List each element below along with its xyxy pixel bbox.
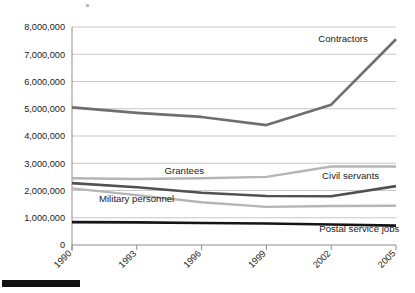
y-tick-label: 8,000,000	[24, 22, 65, 32]
footer-black-bar	[2, 280, 80, 287]
series-label-contractors: Contractors	[318, 33, 368, 44]
series-label-grantees: Grantees	[165, 165, 205, 176]
series-label-postal-service-jobs: Postal service jobs	[319, 223, 399, 234]
y-tick-label: 6,000,000	[24, 77, 65, 87]
series-label-military-personnel: Military personnel	[99, 193, 174, 204]
y-tick-label: 5,000,000	[24, 104, 65, 114]
gridlines-group	[72, 27, 396, 218]
y-tick-label: 3,000,000	[24, 159, 65, 169]
series-label-civil-servants: Civil servants	[322, 170, 379, 181]
x-tick-labels-group: 199019931996199920022005	[52, 248, 398, 270]
y-tick-label: 7,000,000	[24, 50, 65, 60]
y-tick-labels-group: 01,000,0002,000,0003,000,0004,000,0005,0…	[24, 22, 65, 250]
x-tick-label: 2005	[376, 248, 398, 270]
x-tick-label: 1990	[52, 248, 74, 270]
chart-container: 01,000,0002,000,0003,000,0004,000,0005,0…	[0, 0, 415, 293]
x-tick-marks-group	[72, 245, 396, 250]
y-tick-label: 0	[60, 240, 65, 250]
line-chart: 01,000,0002,000,0003,000,0004,000,0005,0…	[0, 0, 415, 293]
top-speck-mark	[86, 4, 89, 7]
x-tick-label: 1999	[246, 248, 268, 270]
x-tick-label: 2002	[311, 248, 333, 270]
series-line-contractors	[72, 39, 396, 125]
x-tick-label: 1996	[181, 248, 203, 270]
y-tick-label: 1,000,000	[24, 213, 65, 223]
y-tick-label: 4,000,000	[24, 131, 65, 141]
y-tick-label: 2,000,000	[24, 186, 65, 196]
series-labels-group: ContractorsGranteesCivil servantsMilitar…	[99, 33, 399, 234]
x-tick-label: 1993	[117, 248, 139, 270]
